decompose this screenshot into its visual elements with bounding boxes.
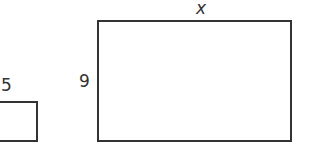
large-rectangle [97, 20, 292, 142]
large-rectangle-width-label: x [196, 0, 206, 17]
small-rectangle-width-label: 5 [1, 77, 12, 94]
small-rectangle [0, 101, 38, 142]
large-rectangle-height-label: 9 [79, 73, 90, 90]
